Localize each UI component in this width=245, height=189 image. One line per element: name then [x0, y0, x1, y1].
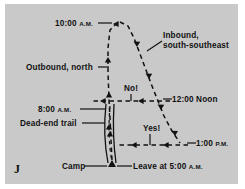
label-time-1pm: 1:00 P.M.	[196, 139, 228, 149]
figure-panel-j: 10:00 A.M. Outbound, north 8:00 A.M. Dea…	[0, 0, 245, 189]
label-time-10am: 10:00 A.M.	[55, 19, 93, 29]
label-leave-text: Leave at 5:00	[133, 162, 186, 171]
outbound-path	[108, 24, 116, 160]
label-inbound: Inbound,south-southeast	[163, 31, 229, 50]
turnaround-arrowhead	[113, 21, 119, 27]
label-leave-suffix: A.M.	[189, 163, 203, 170]
label-time-8am: 8:00 A.M.	[38, 105, 71, 115]
label-leave-time: Leave at 5:00 A.M.	[133, 162, 203, 172]
camp-marker-icon	[108, 160, 116, 167]
label-time-1pm-text: 1:00	[196, 139, 213, 148]
label-inbound-line2: south-southeast	[163, 41, 229, 50]
leader-inbound	[147, 41, 162, 51]
figure-letter: J	[14, 162, 20, 177]
label-time-10am-suffix: A.M.	[79, 20, 93, 27]
label-inbound-line1: Inbound,	[163, 31, 199, 40]
label-time-8am-suffix: A.M.	[57, 106, 71, 113]
label-camp: Camp	[62, 162, 85, 172]
label-outbound: Outbound, north	[26, 63, 93, 73]
label-time-1pm-suffix: P.M.	[215, 140, 228, 147]
label-time-10am-text: 10:00	[55, 19, 77, 28]
label-marker-yes: Yes!	[143, 124, 160, 134]
dead-end-trail-arrowhead	[106, 124, 112, 130]
label-marker-no: No!	[124, 84, 138, 94]
label-dead-end-trail: Dead-end trail	[20, 119, 77, 129]
label-time-8am-text: 8:00	[38, 105, 55, 114]
label-time-noon: 12:00 Noon	[172, 95, 218, 105]
